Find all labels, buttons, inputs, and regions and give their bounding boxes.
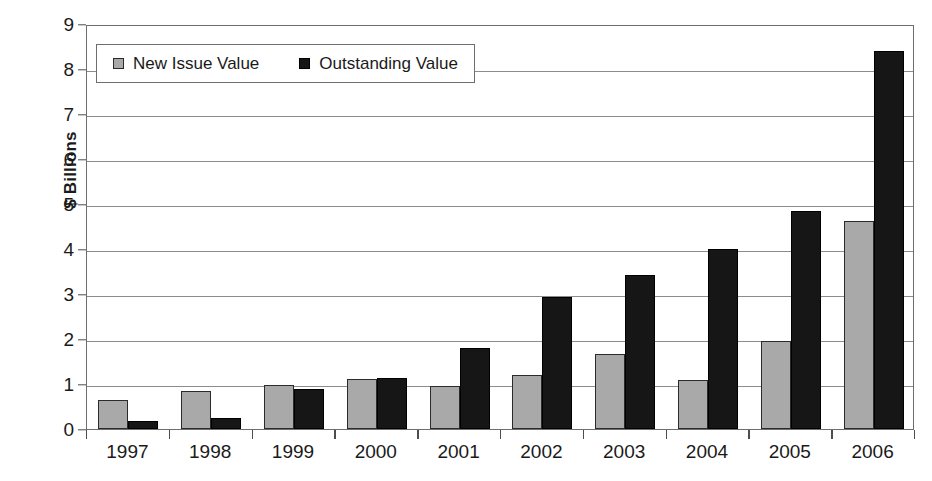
bar-new-issue-1999 <box>264 385 294 429</box>
y-tick-label: 5 <box>34 194 74 216</box>
bar-new-issue-2000 <box>347 379 377 429</box>
bar-outstanding-2001 <box>460 348 490 429</box>
bar-outstanding-2004 <box>708 249 738 429</box>
bar-outstanding-2006 <box>874 51 904 429</box>
bar-group <box>170 26 253 429</box>
y-tick-mark <box>78 114 86 115</box>
y-tick-label: 4 <box>34 239 74 261</box>
x-tick-mark <box>748 430 749 439</box>
bar-group <box>87 26 170 429</box>
bar-new-issue-2006 <box>844 221 874 429</box>
x-tick-mark <box>417 430 418 439</box>
bar-new-issue-2003 <box>595 354 625 429</box>
chart-legend: New Issue ValueOutstanding Value <box>96 44 475 83</box>
legend-entry-outstanding: Outstanding Value <box>299 54 458 74</box>
legend-swatch-icon <box>299 58 310 69</box>
x-tick-mark <box>86 430 87 439</box>
y-tick-label: 3 <box>34 284 74 306</box>
bar-new-issue-2005 <box>761 341 791 429</box>
y-tick-mark <box>78 159 86 160</box>
y-tick-label: 1 <box>34 374 74 396</box>
bar-outstanding-2000 <box>377 378 407 429</box>
bar-group <box>584 26 667 429</box>
y-tick-mark <box>78 339 86 340</box>
bar-outstanding-1997 <box>128 421 158 429</box>
y-tick-mark <box>78 69 86 70</box>
legend-label: Outstanding Value <box>319 54 458 74</box>
bar-chart-figure: $ Billions 0123456789 199719981999200020… <box>0 0 932 481</box>
x-tick-mark <box>831 430 832 439</box>
y-tick-label: 0 <box>34 419 74 441</box>
bar-group <box>667 26 750 429</box>
bar-group <box>501 26 584 429</box>
bar-group <box>832 26 915 429</box>
bar-group <box>749 26 832 429</box>
bar-group <box>418 26 501 429</box>
bar-new-issue-2001 <box>430 386 460 429</box>
y-tick-mark <box>78 429 86 430</box>
legend-label: New Issue Value <box>133 54 259 74</box>
y-tick-label: 8 <box>34 59 74 81</box>
bar-new-issue-2002 <box>512 375 542 429</box>
x-tick-mark <box>500 430 501 439</box>
y-tick-label: 7 <box>34 104 74 126</box>
y-tick-mark <box>78 204 86 205</box>
legend-swatch-icon <box>113 58 124 69</box>
bar-group <box>253 26 336 429</box>
bars-layer <box>87 26 913 429</box>
bar-group <box>335 26 418 429</box>
y-tick-mark <box>78 24 86 25</box>
y-tick-mark <box>78 384 86 385</box>
x-tick-mark <box>583 430 584 439</box>
x-tick-mark <box>914 430 915 439</box>
legend-entry-new-issue: New Issue Value <box>113 54 259 74</box>
bar-outstanding-2003 <box>625 275 655 429</box>
y-tick-label: 6 <box>34 149 74 171</box>
x-tick-label: 2006 <box>813 441 932 463</box>
x-tick-mark <box>252 430 253 439</box>
y-tick-label: 9 <box>34 14 74 36</box>
plot-area <box>86 25 914 430</box>
y-tick-label: 2 <box>34 329 74 351</box>
bar-new-issue-1997 <box>98 400 128 429</box>
bar-new-issue-1998 <box>181 391 211 429</box>
bar-outstanding-2002 <box>542 297 572 429</box>
x-tick-mark <box>334 430 335 439</box>
y-tick-mark <box>78 294 86 295</box>
x-tick-mark <box>169 430 170 439</box>
x-tick-mark <box>666 430 667 439</box>
bar-outstanding-2005 <box>791 211 821 429</box>
y-tick-mark <box>78 249 86 250</box>
bar-outstanding-1998 <box>211 418 241 429</box>
bar-new-issue-2004 <box>678 380 708 429</box>
bar-outstanding-1999 <box>294 389 324 429</box>
